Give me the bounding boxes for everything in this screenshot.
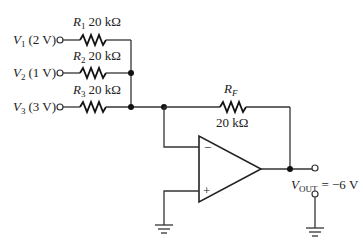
summing-amplifier-schematic: V1(2 V) R120 kΩ V2(1 V) R220 kΩ V3(3 V) … xyxy=(0,0,363,247)
resistor-r1-label: R120 kΩ xyxy=(72,14,121,31)
resistor-rf-value: 20 kΩ xyxy=(216,115,248,130)
input-v2-terminal xyxy=(57,70,63,76)
inverting-input-wire xyxy=(164,107,199,147)
output-terminal xyxy=(312,165,318,171)
resistor-r1-icon xyxy=(80,35,106,45)
input-v3: V3(3 V) R320 kΩ xyxy=(13,82,164,116)
input-v2: V2(1 V) R220 kΩ xyxy=(13,48,131,82)
resistor-r3-label: R320 kΩ xyxy=(72,82,121,99)
opamp: − + xyxy=(199,136,261,202)
input-v1: V1(2 V) R120 kΩ xyxy=(13,14,131,49)
resistor-r2-label: R220 kΩ xyxy=(72,48,121,65)
input-v1-terminal xyxy=(57,37,63,43)
input-v2-label: V2(1 V) xyxy=(13,65,56,82)
resistor-r3-icon xyxy=(80,102,106,112)
input-v1-label: V1(2 V) xyxy=(13,32,56,49)
opamp-noninverting-sign: + xyxy=(203,183,210,198)
output: VOUT= −6 V xyxy=(261,165,359,236)
output-label: VOUT= −6 V xyxy=(291,177,359,194)
junction-dot xyxy=(287,166,293,172)
resistor-r2-icon xyxy=(80,68,106,78)
input-v3-terminal xyxy=(57,104,63,110)
opamp-inverting-sign: − xyxy=(204,140,211,155)
resistor-rf-icon xyxy=(220,102,246,112)
junction-dot xyxy=(128,70,134,76)
output-ground-terminal xyxy=(312,191,318,197)
ground-icon xyxy=(306,228,324,236)
resistor-rf-name: RF xyxy=(223,81,238,98)
input-v3-label: V3(3 V) xyxy=(13,99,56,116)
junction-dot xyxy=(128,104,134,110)
ground-icon xyxy=(155,225,173,233)
noninverting-input-wire xyxy=(164,191,199,225)
